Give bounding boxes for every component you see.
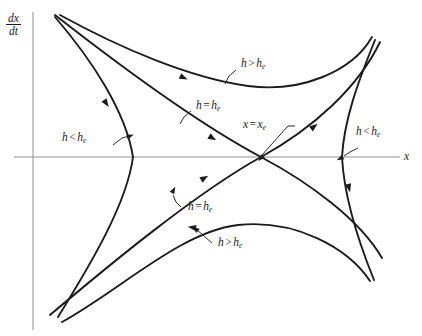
label-right-h-less: h<he (356, 126, 380, 138)
axes-group (14, 12, 400, 330)
x-axis-label: x (404, 150, 409, 162)
y-axis-label-numerator: dx (6, 12, 21, 24)
y-axis-label-denominator: dt (6, 24, 21, 37)
leader-left-branch (113, 136, 129, 145)
label-upper-separatrix-sub: e (217, 104, 220, 113)
label-lower-separatrix-sub: e (209, 205, 212, 214)
leader-arrowhead-lower-separatrix (170, 186, 178, 195)
curve-left-h-less (55, 17, 133, 317)
label-lower-separatrix-op: = (194, 200, 204, 212)
phase-portrait-figure: dx dt x h>he h=he h=he h>he h<he h<he x=… (0, 0, 422, 336)
label-lower-separatrix-lhs: h (188, 200, 194, 212)
label-upper-h-greater: h>he (241, 58, 265, 70)
label-lower-h-greater-lhs: h (218, 236, 224, 248)
label-left-h-less-op: < (68, 131, 78, 143)
label-upper-separatrix: h=he (196, 100, 220, 112)
label-right-h-less-op: < (362, 125, 372, 137)
label-upper-h-greater-sub: e (262, 62, 265, 71)
label-left-h-less-lhs: h (62, 131, 68, 143)
label-upper-separatrix-op: = (202, 99, 212, 111)
label-saddle-point: x=xe (243, 119, 266, 131)
label-left-h-less-sub: e (83, 136, 86, 145)
label-right-h-less-sub: e (377, 130, 380, 139)
label-lower-h-greater: h>he (218, 237, 242, 249)
leader-upper-separatrix (180, 111, 191, 124)
label-upper-h-greater-lhs: h (241, 57, 247, 69)
flow-arrow-left-branch (101, 98, 111, 108)
phase-portrait-svg (0, 0, 422, 336)
label-lower-h-greater-sub: e (239, 241, 242, 250)
curve-upper-h-greater (60, 15, 372, 87)
y-axis-label: dx dt (6, 12, 21, 38)
curve-lower-separatrix (50, 42, 380, 315)
flow-arrow-group (101, 73, 353, 231)
label-upper-separatrix-lhs: h (196, 99, 202, 111)
flow-arrow-lower-separatrix (199, 173, 209, 183)
flow-arrow-lower-separatrix-right (309, 121, 319, 131)
label-saddle-point-sub: e (263, 123, 266, 132)
leader-saddle-point (262, 126, 295, 155)
label-left-h-less: h<he (62, 132, 86, 144)
leader-lower-separatrix (173, 195, 181, 207)
curve-upper-separatrix (55, 15, 382, 258)
label-lower-h-greater-op: > (224, 236, 234, 248)
label-upper-h-greater-op: > (247, 57, 257, 69)
label-right-h-less-lhs: h (356, 125, 362, 137)
label-saddle-point-op: = (248, 118, 258, 130)
curve-lower-h-greater (62, 224, 370, 322)
flow-arrow-upper-outer (179, 73, 189, 82)
leader-arrowhead-group (126, 132, 344, 233)
label-lower-separatrix: h=he (188, 201, 212, 213)
leader-right-branch (344, 148, 358, 156)
flow-arrow-upper-separatrix (207, 133, 217, 143)
